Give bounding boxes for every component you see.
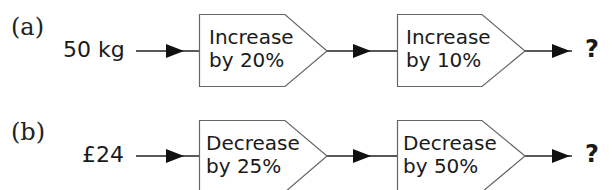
step-a1-text: Increase by 20% — [209, 26, 294, 72]
result-a: ? — [585, 35, 599, 63]
result-b: ? — [585, 140, 599, 168]
arrowhead-icon — [353, 149, 371, 163]
step-b2-line2: by 50% — [403, 155, 497, 178]
part-label-b: (b) — [11, 118, 45, 146]
step-b2-text: Decrease by 50% — [403, 132, 497, 178]
step-b2-line1: Decrease — [403, 132, 497, 155]
arrowhead-icon — [166, 149, 184, 163]
step-b1-text: Decrease by 25% — [206, 132, 300, 178]
start-value-b: £24 — [82, 142, 124, 167]
step-a2-text: Increase by 10% — [406, 26, 491, 72]
part-label-a: (a) — [11, 13, 44, 41]
arrowhead-icon — [166, 44, 184, 58]
function-machine-diagram: (a) 50 kg Increase by 20% Increase by 10… — [0, 0, 612, 190]
step-a1-line1: Increase — [209, 26, 294, 49]
arrowhead-icon — [353, 44, 371, 58]
step-a1-line2: by 20% — [209, 49, 294, 72]
start-value-a: 50 kg — [63, 37, 125, 62]
step-b1-line2: by 25% — [206, 155, 300, 178]
arrowhead-icon — [552, 44, 570, 58]
step-b1-line1: Decrease — [206, 132, 300, 155]
step-a2-line2: by 10% — [406, 49, 491, 72]
arrowhead-icon — [552, 149, 570, 163]
step-a2-line1: Increase — [406, 26, 491, 49]
